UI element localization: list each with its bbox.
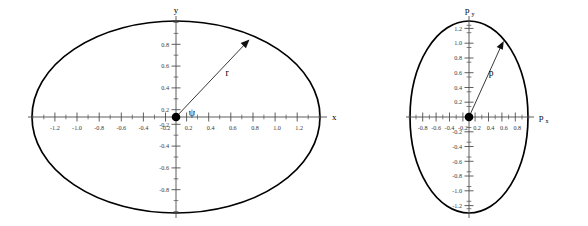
radius-vector-line xyxy=(176,42,247,117)
right-origin-marker xyxy=(465,113,474,122)
left-y-tick-label: -0.8 xyxy=(159,186,169,193)
right-y-tick-label: 0.6 xyxy=(454,69,462,76)
right-x-tick-label: -0.6 xyxy=(431,124,441,131)
momentum-vector-arrowhead xyxy=(497,41,504,50)
left-x-tick-label: 0.8 xyxy=(251,124,259,131)
left-x-axis-label: x xyxy=(332,112,337,122)
right-y-tick-label: -0.2 xyxy=(452,128,462,135)
left-y-tick-label: 0.6 xyxy=(161,62,169,69)
left-x-tick-label: -0.4 xyxy=(139,124,149,131)
right-x-tick-label: 0.8 xyxy=(513,124,521,131)
momentum-vector-annotation: p xyxy=(469,41,504,117)
left-x-tick-label: 0.6 xyxy=(229,124,237,131)
left-y-tick-label: 0.4 xyxy=(161,84,169,91)
left-x-tick-label: -1.2 xyxy=(50,124,60,131)
right-y-tick-label: 1.2 xyxy=(454,25,462,32)
right-x-tick-label: 0.4 xyxy=(487,124,495,131)
right-y-tick-label: -0.6 xyxy=(452,158,462,165)
right-y-axis-label: p xyxy=(465,5,470,15)
right-x-axis-label-subscript: x xyxy=(546,118,549,124)
left-x-tick-label: -0.6 xyxy=(116,124,126,131)
right-y-tick-label: 0.8 xyxy=(454,54,462,61)
phase-space-figure: -1.2 -1.0 -0.8 -0.6 -0.4 -0.2 0.2 0.4 0.… xyxy=(0,0,588,226)
left-y-tick-label: -0.2 xyxy=(159,121,169,128)
left-origin-marker xyxy=(172,113,181,122)
momentum-vector-label: p xyxy=(489,68,494,78)
right-y-tick-label: 0.4 xyxy=(454,84,462,91)
momentum-vector-line xyxy=(469,44,502,117)
right-x-tick-label: -0.8 xyxy=(418,124,428,131)
right-y-tick-label: 0.2 xyxy=(454,98,462,105)
right-y-tick-label: -0.8 xyxy=(452,172,462,179)
right-x-tick-label: 0.6 xyxy=(500,124,508,131)
left-x-tick-label: 0.4 xyxy=(207,124,215,131)
left-y-tick-label: 0.8 xyxy=(161,41,169,48)
left-y-tick-label: -0.4 xyxy=(159,142,169,149)
angle-psi-label: ψ xyxy=(189,107,196,118)
momentum-space-plot: -0.8 -0.6 -0.4 -0.2 0.2 0.4 0.6 0.8 xyxy=(360,0,588,226)
left-y-tick-label: -0.6 xyxy=(159,164,169,171)
radius-vector-annotation: r ψ xyxy=(176,39,250,118)
left-x-tick-label: -1.0 xyxy=(72,124,82,131)
left-y-axis-label: y xyxy=(174,5,179,15)
right-y-tick-label: 1.0 xyxy=(454,39,462,46)
left-x-tick-label: 0.2 xyxy=(185,124,193,131)
right-x-axis-label-group: p x xyxy=(539,112,549,124)
right-x-axis-label: p xyxy=(539,112,544,122)
right-y-tick-label: -1.2 xyxy=(452,202,462,209)
right-y-axis-label-subscript: y xyxy=(472,11,475,17)
right-y-axis-label-group: p y xyxy=(465,5,475,17)
radius-vector-label: r xyxy=(225,68,229,78)
left-x-tick-label: 1.2 xyxy=(295,124,303,131)
right-y-tick-label: -1.0 xyxy=(452,187,462,194)
right-y-tick-label: -0.4 xyxy=(452,143,462,150)
left-x-tick-label: 1.0 xyxy=(273,124,281,131)
left-y-tick-label: 0.2 xyxy=(161,106,169,113)
left-x-tick-label: -0.8 xyxy=(94,124,104,131)
right-x-tick-label: 0.2 xyxy=(473,124,481,131)
position-space-plot: -1.2 -1.0 -0.8 -0.6 -0.4 -0.2 0.2 0.4 0.… xyxy=(0,0,360,226)
left-x-tick-labels: -1.2 -1.0 -0.8 -0.6 -0.4 -0.2 0.2 0.4 0.… xyxy=(50,124,303,131)
